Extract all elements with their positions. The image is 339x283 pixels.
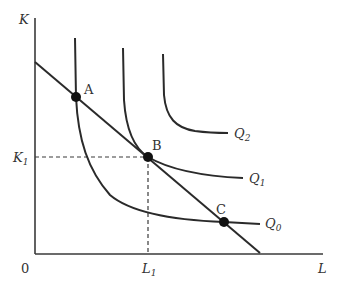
x-axis-label: L bbox=[317, 261, 327, 276]
origin-label: 0 bbox=[21, 261, 29, 276]
isoquant-diagram: A B C Q2 Q1 Q0 K L 0 K1 L1 bbox=[0, 0, 339, 283]
q2-label: Q2 bbox=[234, 126, 251, 143]
point-a bbox=[71, 92, 81, 102]
point-c bbox=[219, 217, 229, 227]
l1-tick-label: L1 bbox=[141, 261, 156, 278]
point-a-label: A bbox=[83, 82, 94, 97]
point-b-label: B bbox=[152, 138, 162, 153]
point-b bbox=[143, 152, 153, 162]
y-axis-label: K bbox=[18, 12, 30, 27]
point-c-label: C bbox=[216, 202, 226, 217]
isoquant-q0 bbox=[75, 38, 260, 224]
isoquant-q1 bbox=[123, 48, 243, 178]
isoquant-q2 bbox=[163, 54, 228, 133]
k1-tick-label: K1 bbox=[12, 150, 28, 167]
q1-label: Q1 bbox=[249, 171, 265, 188]
q0-label: Q0 bbox=[265, 216, 282, 233]
